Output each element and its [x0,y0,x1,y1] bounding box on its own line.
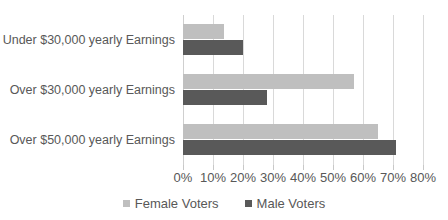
legend-item[interactable]: Female Voters [123,196,219,211]
legend-label: Male Voters [257,196,326,211]
bar-group [183,115,423,165]
x-axis-tick-label: 30% [260,170,286,185]
legend-label: Female Voters [135,196,219,211]
bar-group [183,15,423,65]
plot-area [183,15,423,165]
x-axis-labels: 0%10%20%30%40%50%60%70%80% [0,170,448,190]
x-axis-tick-label: 60% [350,170,376,185]
bar-male-voters [183,140,396,155]
bar-female-voters [183,74,354,89]
bar-female-voters [183,124,378,139]
x-axis-tick-label: 10% [200,170,226,185]
legend-swatch-icon [123,200,130,207]
x-axis-tick-label: 40% [290,170,316,185]
bar-group [183,65,423,115]
gridline-80pct [423,15,424,165]
bar-female-voters [183,24,224,39]
category-label: Over $30,000 yearly Earnings [10,65,175,115]
legend-item[interactable]: Male Voters [245,196,326,211]
legend: Female VotersMale Voters [0,196,448,211]
bar-groups [183,15,423,165]
x-axis-tick-label: 80% [410,170,436,185]
category-axis-labels: Under $30,000 yearly EarningsOver $30,00… [0,15,181,165]
bar-male-voters [183,90,267,105]
x-axis-tick-label: 0% [174,170,193,185]
x-axis-tick-label: 20% [230,170,256,185]
x-axis-tick-label: 50% [320,170,346,185]
bar-male-voters [183,40,243,55]
x-axis-tick-label: 70% [380,170,406,185]
category-label: Under $30,000 yearly Earnings [3,15,175,65]
legend-swatch-icon [245,200,252,207]
bar-chart: Under $30,000 yearly EarningsOver $30,00… [0,0,448,220]
category-label: Over $50,000 yearly Earnings [10,115,175,165]
